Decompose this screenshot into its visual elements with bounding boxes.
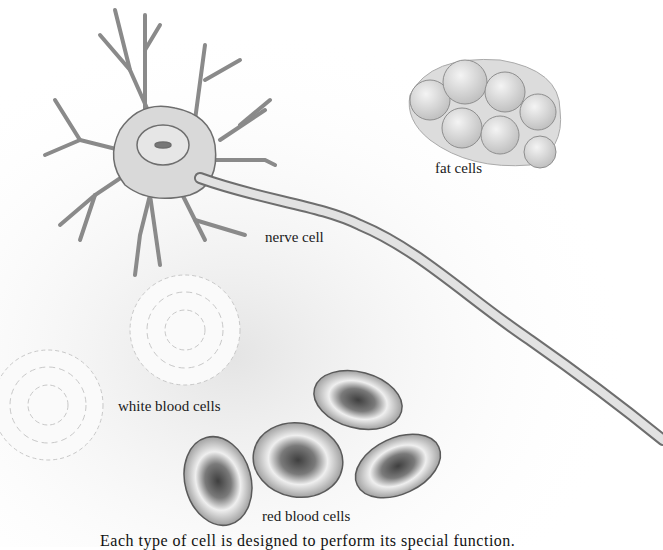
red-blood-cells-label: red blood cells [262, 508, 350, 525]
nerve-cell-label: nerve cell [265, 229, 324, 246]
white-blood-cells-label: white blood cells [118, 398, 220, 415]
fat-cells-label: fat cells [435, 160, 482, 177]
figure-caption: Each type of cell is designed to perform… [100, 532, 515, 550]
